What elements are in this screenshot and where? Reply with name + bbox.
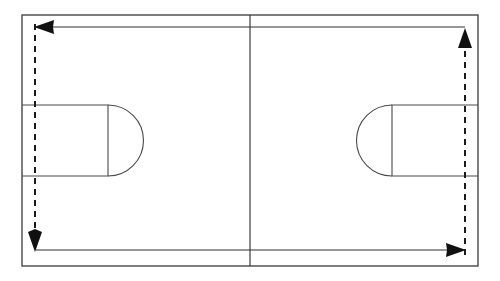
court-svg-canvas: [0, 0, 500, 281]
basketball-court-diagram: Basketball Court Perimeter Movement Diag…: [0, 0, 500, 281]
